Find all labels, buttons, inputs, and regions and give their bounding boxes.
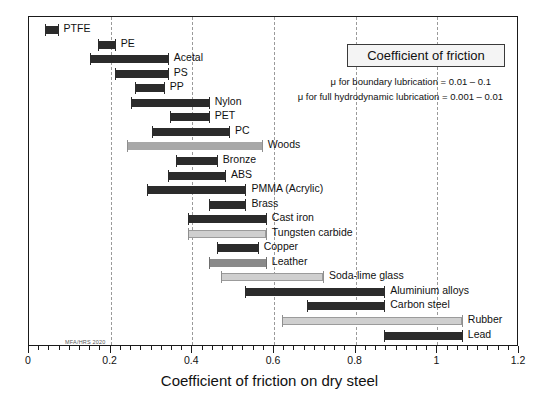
bar-end-cap [147, 184, 148, 196]
range-bar [168, 172, 225, 180]
bar-label: Woods [268, 137, 301, 151]
axis-tick-label: 0.8 [347, 354, 362, 366]
bar-label: Acetal [174, 50, 203, 64]
axis-tick-minor [457, 346, 458, 350]
bar-end-cap [217, 155, 218, 167]
axis-tick-minor [293, 346, 294, 350]
bar-end-cap [188, 228, 189, 240]
bar-end-cap [58, 24, 59, 36]
bar-end-cap [164, 82, 165, 94]
bar-end-cap [245, 199, 246, 211]
bar-row: PET [29, 110, 517, 124]
chart-title-box: Coefficient of friction [347, 44, 505, 67]
bar-end-cap [462, 330, 463, 342]
bar-label: Lead [468, 327, 491, 341]
axis-tick-minor [396, 346, 397, 350]
axis-tick-minor [324, 346, 325, 350]
bar-end-cap [384, 300, 385, 312]
bar-label: PET [215, 108, 235, 122]
axis-tick-major [518, 346, 519, 353]
x-axis: 00.20.40.60.811.2 [28, 346, 518, 347]
axis-tick-minor [120, 346, 121, 350]
bar-label: PMMA (Acrylic) [251, 181, 323, 195]
axis-tick-minor [242, 346, 243, 350]
axis-tick-minor [69, 346, 70, 350]
axis-tick-label: 0.4 [184, 354, 199, 366]
bar-end-cap [168, 68, 169, 80]
bar-end-cap [176, 155, 177, 167]
axis-tick-minor [375, 346, 376, 350]
bar-end-cap [462, 315, 463, 327]
bar-end-cap [229, 126, 230, 138]
bar-end-cap [152, 126, 153, 138]
axis-tick-minor [385, 346, 386, 350]
bar-end-cap [266, 228, 267, 240]
bar-label: Tungsten carbide [272, 225, 353, 239]
range-bar [90, 55, 168, 63]
bar-end-cap [209, 97, 210, 109]
bar-end-cap [245, 184, 246, 196]
axis-tick-major [436, 346, 437, 353]
bar-label: Brass [251, 196, 278, 210]
axis-tick-minor [508, 346, 509, 350]
bar-end-cap [266, 213, 267, 225]
axis-tick-major [191, 346, 192, 353]
range-bar [135, 84, 164, 92]
range-bar [217, 244, 258, 252]
range-bar [98, 41, 114, 49]
bar-end-cap [258, 242, 259, 254]
bar-end-cap [168, 53, 169, 65]
bar-label: Rubber [468, 312, 502, 326]
bar-end-cap [90, 53, 91, 65]
range-bar [384, 332, 462, 340]
axis-tick-minor [79, 346, 80, 350]
axis-tick-minor [232, 346, 233, 350]
bar-end-cap [209, 199, 210, 211]
bar-label: Leather [272, 254, 308, 268]
range-bar [45, 26, 57, 34]
range-bar [245, 288, 384, 296]
axis-tick-minor [498, 346, 499, 350]
bar-label: PS [174, 65, 188, 79]
bar-end-cap [170, 111, 171, 123]
axis-tick-minor [344, 346, 345, 350]
axis-tick-minor [99, 346, 100, 350]
bar-row: Bronze [29, 154, 517, 168]
annotation-hydrodynamic-lubrication: μ for full hydrodynamic lubrication = 0.… [298, 91, 503, 102]
bar-label: PE [121, 36, 135, 50]
axis-tick-minor [487, 346, 488, 350]
bar-end-cap [282, 315, 283, 327]
range-bar [188, 230, 266, 238]
bar-end-cap [115, 39, 116, 51]
axis-tick-minor [253, 346, 254, 350]
bar-label: PTFE [64, 21, 91, 35]
axis-tick-major [355, 346, 356, 353]
bar-end-cap [384, 330, 385, 342]
axis-tick-minor [202, 346, 203, 350]
bar-label: Nylon [215, 94, 242, 108]
axis-tick-minor [365, 346, 366, 350]
bar-end-cap [225, 170, 226, 182]
chart-canvas: PTFEPEAcetalPSPPNylonPETPCWoodsBronzeABS… [0, 0, 539, 402]
bar-row: PTFE [29, 23, 517, 37]
axis-tick-minor [38, 346, 39, 350]
axis-tick-minor [283, 346, 284, 350]
axis-tick-label: 0.2 [102, 354, 117, 366]
bar-end-cap [245, 286, 246, 298]
bar-end-cap [307, 300, 308, 312]
range-bar [176, 157, 217, 165]
axis-tick-minor [334, 346, 335, 350]
bar-end-cap [262, 140, 263, 152]
bar-end-cap [209, 111, 210, 123]
axis-tick-minor [171, 346, 172, 350]
bar-row: Leather [29, 256, 517, 270]
axis-tick-minor [222, 346, 223, 350]
bar-end-cap [266, 257, 267, 269]
axis-tick-minor [447, 346, 448, 350]
bar-label: PC [235, 123, 250, 137]
axis-tick-minor [304, 346, 305, 350]
x-axis-label: Coefficient of friction on dry steel [0, 372, 539, 389]
bar-row: Rubber [29, 314, 517, 328]
bar-end-cap [98, 39, 99, 51]
axis-tick-minor [48, 346, 49, 350]
